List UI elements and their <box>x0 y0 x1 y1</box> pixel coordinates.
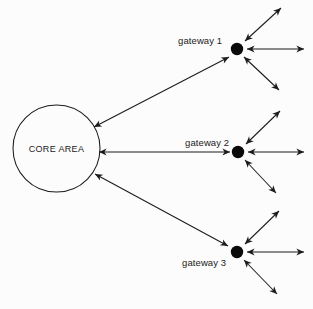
core-to-gateway-links <box>94 57 230 246</box>
core-area-label: CORE AREA <box>29 144 85 154</box>
gateway-3-dot <box>231 246 243 258</box>
gateway-2-spokes <box>245 111 304 193</box>
gateway-2-label: gateway 2 <box>185 137 229 148</box>
gateway-3-spokes <box>244 211 304 294</box>
gateway-1-spokes <box>244 8 304 90</box>
core-gateway-3-link[interactable] <box>95 174 228 246</box>
core-gateway-1-link[interactable] <box>94 57 229 127</box>
gateway-2-spoke-up-right-arrow[interactable] <box>246 111 280 144</box>
core-area-node[interactable]: CORE AREA <box>13 105 100 192</box>
network-topology-diagram: CORE AREA gateway 1 gate <box>0 0 313 309</box>
gateway-1-spoke-up-right-arrow[interactable] <box>245 8 281 41</box>
gateway-2-node[interactable]: gateway 2 <box>185 137 244 158</box>
gateway-1-dot <box>231 43 243 55</box>
gateway-3-node[interactable]: gateway 3 <box>182 246 243 268</box>
gateway-2-dot <box>232 146 244 158</box>
gateway-3-spoke-down-right-arrow[interactable] <box>244 260 277 294</box>
gateway-2-spoke-down-right-arrow[interactable] <box>245 160 276 193</box>
gateway-3-label: gateway 3 <box>182 257 226 268</box>
diagram-canvas: CORE AREA gateway 1 gate <box>0 0 313 309</box>
gateway-1-label: gateway 1 <box>178 35 222 46</box>
gateway-1-node[interactable]: gateway 1 <box>178 35 243 55</box>
gateway-1-spoke-down-right-arrow[interactable] <box>244 57 279 90</box>
gateway-3-spoke-up-right-arrow[interactable] <box>245 211 279 244</box>
